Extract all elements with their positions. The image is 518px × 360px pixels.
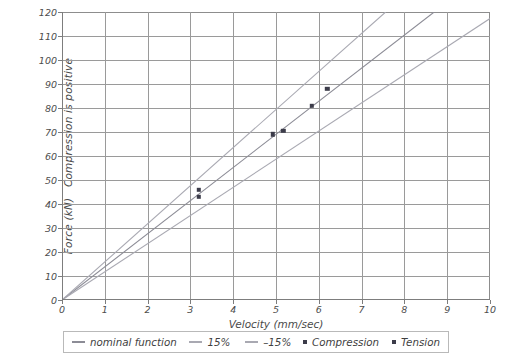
x-tick-mark — [190, 300, 191, 304]
y-tick-label: 110 — [39, 31, 57, 42]
y-axis-line — [62, 12, 63, 300]
y-tick-label: 20 — [45, 247, 57, 258]
y-tick-label: 80 — [45, 103, 57, 114]
y-tick-label: 100 — [39, 55, 57, 66]
series-line — [62, 18, 490, 300]
legend-label: Tension — [401, 336, 440, 348]
square-marker-icon — [392, 340, 396, 344]
chart-legend: nominal function 15% –15% Compression Te… — [63, 331, 449, 353]
line-swatch-icon — [245, 341, 258, 343]
x-tick-label: 10 — [484, 304, 496, 315]
line-swatch-icon — [189, 341, 202, 343]
legend-label: nominal function — [90, 336, 177, 348]
y-tick-label: 40 — [45, 199, 57, 210]
y-tick-label: 90 — [45, 79, 57, 90]
x-tick-mark — [447, 300, 448, 304]
x-tick-label: 1 — [102, 304, 108, 315]
x-tick-mark — [148, 300, 149, 304]
chart-root: Force (kN) Compression is positive 01020… — [0, 0, 518, 360]
x-tick-mark — [404, 300, 405, 304]
data-point-marker — [310, 103, 314, 107]
x-tick-mark — [490, 300, 491, 304]
data-point-marker — [197, 195, 201, 199]
x-tick-mark — [105, 300, 106, 304]
legend-item-nominal-function[interactable]: nominal function — [72, 336, 177, 348]
line-swatch-icon — [72, 341, 85, 343]
legend-item-compression[interactable]: Compression — [303, 336, 379, 348]
x-tick-mark — [276, 300, 277, 304]
x-axis-title: Velocity (mm/sec) — [62, 318, 490, 330]
x-axis-line — [62, 299, 490, 300]
x-tick-label: 6 — [316, 304, 322, 315]
plot-area: 0102030405060708090100110120012345678910 — [62, 12, 490, 300]
legend-item-minus-15[interactable]: –15% — [245, 336, 291, 348]
y-tick-label: 50 — [45, 175, 57, 186]
y-tick-label: 10 — [45, 271, 57, 282]
y-tick-label: 70 — [45, 127, 57, 138]
data-point-marker — [197, 187, 201, 191]
x-tick-mark — [233, 300, 234, 304]
legend-item-plus-15[interactable]: 15% — [189, 336, 230, 348]
legend-label: Compression — [312, 336, 379, 348]
x-tick-label: 2 — [145, 304, 151, 315]
x-tick-label: 3 — [187, 304, 193, 315]
square-marker-icon — [303, 340, 307, 344]
data-point-marker — [270, 132, 274, 136]
x-tick-mark — [319, 300, 320, 304]
x-tick-label: 9 — [444, 304, 450, 315]
series-line — [62, 12, 434, 300]
x-tick-label: 5 — [273, 304, 279, 315]
legend-label: 15% — [207, 336, 230, 348]
x-tick-mark — [362, 300, 363, 304]
legend-label: –15% — [263, 336, 291, 348]
y-tick-label: 30 — [45, 223, 57, 234]
y-tick-label: 120 — [39, 7, 57, 18]
series-lines — [62, 12, 490, 300]
y-tick-label: 0 — [51, 295, 57, 306]
x-tick-label: 7 — [359, 304, 365, 315]
x-tick-label: 8 — [401, 304, 407, 315]
data-point-marker — [281, 129, 285, 133]
legend-item-tension[interactable]: Tension — [392, 336, 440, 348]
data-point-marker — [325, 87, 329, 91]
series-line — [62, 12, 386, 300]
x-tick-mark — [62, 300, 63, 304]
y-tick-label: 60 — [45, 151, 57, 162]
x-tick-label: 0 — [59, 304, 65, 315]
x-tick-label: 4 — [230, 304, 236, 315]
